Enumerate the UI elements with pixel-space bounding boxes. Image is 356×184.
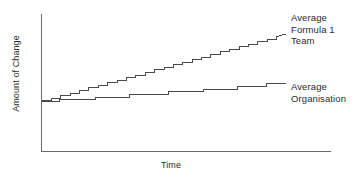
series-line-average-formula-1-team [42, 34, 286, 101]
series-label-average-formula-1-team: Average Formula 1 Team [291, 12, 335, 47]
y-axis-label: Amount of Change [11, 26, 22, 122]
x-axis-label: Time [161, 160, 181, 171]
series-line-average-organisation [42, 83, 286, 101]
series-label-average-organisation: Average Organisation [291, 81, 346, 104]
step-chart-figure: Amount of Change Time Average Formula 1 … [0, 0, 356, 184]
